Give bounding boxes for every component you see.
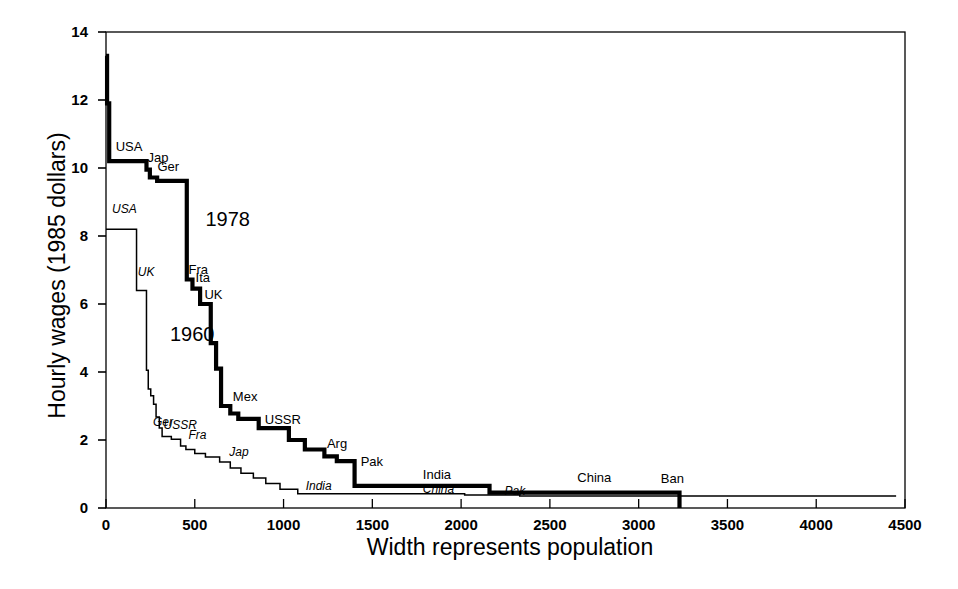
series-group (106, 56, 896, 508)
y-tick-label: 2 (54, 431, 88, 448)
x-tick-label: 3000 (609, 516, 669, 533)
plot-frame (106, 32, 905, 508)
chart-canvas (0, 0, 958, 589)
x-tick-label: 2500 (520, 516, 580, 533)
x-tick-label: 4000 (786, 516, 846, 533)
x-tick-label: 500 (165, 516, 225, 533)
y-tick-label: 12 (54, 91, 88, 108)
data-point-label: UK (138, 266, 155, 278)
data-point-label: Jap (229, 446, 248, 458)
data-point-label: USSR (265, 413, 301, 426)
data-point-label: Arg (327, 437, 347, 450)
y-tick-label: 10 (54, 159, 88, 176)
data-point-label: Mex (233, 390, 258, 403)
data-point-label: Ger (157, 160, 179, 173)
x-axis-title: Width represents population (300, 534, 720, 561)
x-tick-label: 3500 (697, 516, 757, 533)
series-tag-1978: 1978 (205, 208, 250, 231)
data-point-label: India (306, 480, 332, 492)
y-tick-label: 6 (54, 295, 88, 312)
data-point-label: India (423, 468, 451, 481)
data-point-label: USA (116, 140, 143, 153)
y-tick-label: 4 (54, 363, 88, 380)
y-tick-label: 0 (54, 499, 88, 516)
figure-container: Hourly wages (1985 dollars) Width repres… (0, 0, 958, 589)
x-tick-label: 0 (76, 516, 136, 533)
x-tick-label: 1000 (254, 516, 314, 533)
series-line-1960 (106, 229, 896, 496)
data-point-label: Ban (661, 472, 684, 485)
x-tick-label: 4500 (875, 516, 935, 533)
data-point-label: Pak (505, 485, 526, 497)
y-tick-label: 14 (54, 23, 88, 40)
x-tick-label: 2000 (431, 516, 491, 533)
y-tick-label: 8 (54, 227, 88, 244)
data-point-label: Pak (361, 455, 383, 468)
series-tag-1960: 1960 (170, 323, 215, 346)
x-tick-label: 1500 (342, 516, 402, 533)
data-point-label: USA (112, 203, 137, 215)
data-point-label: UK (204, 288, 222, 301)
data-point-label: Fra (188, 429, 206, 441)
axes-group (98, 32, 905, 508)
data-point-label: China (577, 471, 611, 484)
data-point-label: China (423, 483, 454, 495)
data-point-label: Ita (196, 271, 210, 284)
